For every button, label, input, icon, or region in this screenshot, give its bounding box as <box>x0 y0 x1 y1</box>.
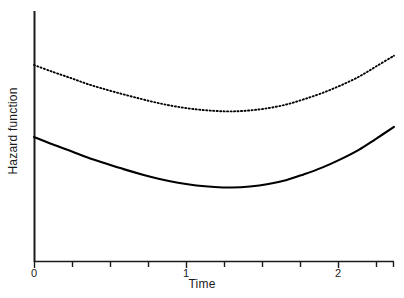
y-axis-title-wrapper: Hazard function <box>2 0 24 262</box>
y-axis-title: Hazard function <box>7 87 19 174</box>
hazard-function-chart: 0 1 2 Time Hazard function <box>0 0 404 298</box>
baseline-hazard-curve <box>34 127 394 188</box>
chart-canvas <box>0 0 404 298</box>
x-axis-title: Time <box>0 278 404 290</box>
comparison-hazard-curve <box>34 56 394 112</box>
